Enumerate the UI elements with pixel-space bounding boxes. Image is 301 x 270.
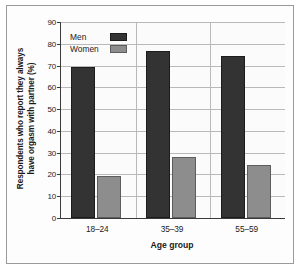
group-separator	[136, 22, 137, 218]
y-tickmark-80	[57, 44, 61, 45]
bar-men-35–39	[146, 51, 170, 218]
y-tick-label-40: 40	[38, 126, 56, 135]
chart-figure: Respondents who report they always have …	[0, 0, 301, 270]
y-tick-label-30: 30	[38, 148, 56, 157]
x-axis-title: Age group	[60, 240, 284, 250]
y-axis-title: Respondents who report they always have …	[16, 19, 37, 219]
x-tick-label-2: 55–59	[235, 224, 258, 234]
bar-men-18–24	[71, 67, 95, 218]
x-tick-label-1: 35–39	[161, 224, 184, 234]
group-separator	[210, 22, 211, 218]
x-tick-label-0: 18–24	[86, 224, 109, 234]
legend-label-women: Women	[70, 44, 110, 54]
y-tick-label-80: 80	[38, 39, 56, 48]
y-axis-tick-labels: 0102030405060708090	[36, 0, 56, 270]
y-tick-label-10: 10	[38, 192, 56, 201]
y-tick-label-0: 0	[38, 214, 56, 223]
y-tickmark-40	[57, 131, 61, 132]
legend-swatch-men	[110, 33, 127, 41]
y-tickmark-50	[57, 109, 61, 110]
y-tick-label-90: 90	[38, 18, 56, 27]
y-tickmark-20	[57, 174, 61, 175]
bar-women-18–24	[97, 176, 121, 218]
bar-women-35–39	[172, 157, 196, 218]
y-tick-label-50: 50	[38, 105, 56, 114]
legend-swatch-women	[110, 45, 127, 53]
gridline-90	[61, 22, 285, 23]
y-tick-label-70: 70	[38, 61, 56, 70]
y-tick-label-20: 20	[38, 170, 56, 179]
y-tickmark-60	[57, 87, 61, 88]
y-tickmark-0	[57, 218, 61, 219]
y-tickmark-90	[57, 22, 61, 23]
legend-item-women: Women	[70, 43, 127, 54]
legend-label-men: Men	[70, 32, 110, 42]
y-tickmark-10	[57, 196, 61, 197]
y-tickmark-70	[57, 66, 61, 67]
legend-item-men: Men	[70, 31, 127, 42]
bar-men-55–59	[221, 56, 245, 218]
y-tickmark-30	[57, 153, 61, 154]
legend: Men Women	[70, 31, 127, 55]
y-tick-label-60: 60	[38, 83, 56, 92]
bar-women-55–59	[247, 165, 271, 218]
